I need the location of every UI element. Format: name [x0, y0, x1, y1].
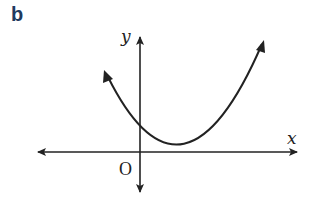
parabola-curve	[108, 44, 262, 145]
x-axis-label: x	[287, 128, 297, 148]
origin-label: O	[119, 159, 132, 179]
curve-arrowheads	[103, 40, 265, 83]
graph: y x O	[0, 0, 325, 203]
y-axis-label: y	[120, 26, 131, 46]
